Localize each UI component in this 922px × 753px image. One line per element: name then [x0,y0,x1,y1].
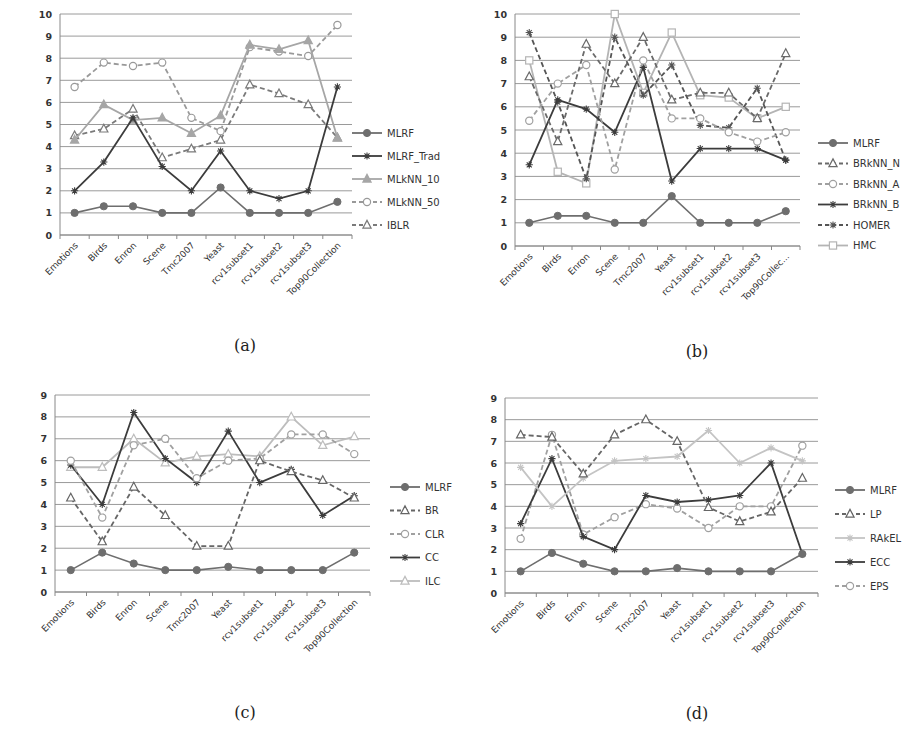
legend-label: MLRF [387,128,414,139]
data-point [130,442,137,449]
legend-label: MLRF [870,485,897,496]
legend-label: BRkNN_N [853,158,900,170]
data-point [580,560,587,567]
y-tick-label: 4 [490,501,497,512]
data-point [287,412,295,420]
data-point [611,10,618,17]
data-point [554,168,561,175]
data-point [526,29,533,36]
data-point [611,129,618,136]
data-point [517,520,524,527]
legend: MLRFBRCLRCCILC [390,482,452,587]
data-point [736,492,743,499]
data-point [725,219,732,226]
legend-label: BRkNN_B [853,199,900,211]
legend-item: BRkNN_N [818,158,900,170]
y-tick-label: 1 [500,217,507,228]
data-point [130,434,138,442]
legend-item: IBLR [352,220,409,231]
series-lp [517,415,807,525]
y-tick-label: 1 [490,566,497,577]
data-point [674,564,681,571]
y-tick-label: 0 [45,230,52,241]
y-tick-label: 9 [490,393,497,404]
data-point [351,451,358,458]
data-point [159,59,166,66]
x-tick-label: Tmc2007 [165,597,203,635]
data-point [736,459,743,466]
series-mlrf [526,193,790,227]
data-point [100,124,108,132]
series-line [529,196,786,223]
y-tick-label: 6 [40,455,47,466]
y-tick-label: 6 [45,97,52,108]
series-line [71,553,355,571]
data-point [193,567,200,574]
data-point [668,61,675,68]
data-point [548,503,555,510]
y-tick-label: 4 [45,141,52,152]
x-tick-label: Yeast [209,597,234,622]
data-point [583,212,590,219]
data-point [71,209,78,216]
data-point [193,475,200,482]
data-point [99,514,106,521]
data-point [162,435,169,442]
data-point [782,129,789,136]
data-point [767,444,774,451]
data-point [162,567,169,574]
data-point [188,209,195,216]
series-line [75,87,338,199]
data-point [129,104,137,112]
data-point [580,533,587,540]
data-point [554,212,561,219]
series-clr [67,431,358,521]
panel-caption: (b) [686,342,709,361]
legend-marker [846,582,853,589]
data-point [288,431,295,438]
legend-item: ECC [835,557,890,568]
series-mlknn-50 [71,21,341,134]
legend-marker [363,198,370,205]
data-point [319,476,327,484]
series-ilc [67,412,359,470]
data-point [256,567,263,574]
data-point [100,203,107,210]
data-point [67,457,74,464]
y-tick-label: 9 [40,390,47,401]
data-point [697,115,704,122]
legend-item: LP [835,509,882,520]
data-point [548,549,555,556]
data-point [217,147,224,154]
legend-marker [829,242,836,249]
x-tick-label: Yeast [653,251,678,276]
x-tick-label: Birds [534,598,557,621]
data-point [217,128,224,135]
legend-item: BRkNN_B [818,199,900,211]
data-point [526,161,533,168]
data-point [611,514,618,521]
legend-item: MLRF [390,482,452,493]
y-tick-label: 1 [40,565,47,576]
data-point [548,455,555,462]
data-point [611,34,618,41]
data-point [611,166,618,173]
data-point [217,111,225,119]
data-point [334,83,341,90]
legend: MLRFMLRF_TradMLkNN_10MLkNN_50IBLR [352,128,440,231]
legend-item: CC [390,552,439,563]
x-tick-label: Enron [114,597,140,623]
x-tick-label: Top90Collection [750,598,808,656]
y-tick-label: 0 [500,241,507,252]
data-point [754,138,761,145]
y-tick-label: 5 [40,477,47,488]
legend: MLRFBRkNN_NBRkNN_ABRkNN_BHOMERHMC [818,138,900,252]
data-point [193,541,201,549]
data-point [668,29,675,36]
chart-panel-c: 0123456789EmotionsBirdsEnronSceneTmc2007… [39,390,452,723]
y-tick-label: 2 [500,194,507,205]
x-tick-label: Top90Collection [285,240,343,298]
y-tick-label: 3 [45,163,52,174]
data-point [640,92,647,99]
data-point [782,49,790,57]
